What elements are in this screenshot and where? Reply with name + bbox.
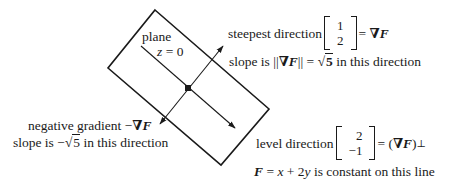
F-symbol: F	[289, 54, 298, 69]
slope-suffix: in this direction	[333, 54, 421, 69]
level-line-label: F = x + 2y is constant on this line	[254, 164, 435, 179]
right-bracket	[369, 126, 375, 160]
plane-equation: z = 0	[157, 44, 183, 59]
perp-icon: ⊥	[417, 136, 426, 151]
center-point	[185, 85, 191, 91]
slope-mid: || =	[298, 54, 318, 69]
level-direction-label: level direction 2 −1 = (∇F)⊥	[256, 126, 426, 160]
vector-entry: 1	[337, 18, 344, 33]
nabla-icon: ∇	[393, 136, 403, 151]
nabla-icon: ∇	[279, 54, 289, 69]
level-vector: 2 −1	[336, 126, 376, 160]
negative-text: negative gradient −	[28, 118, 132, 133]
equals-paren: = (	[377, 136, 392, 151]
steepest-direction-label: steepest direction 1 2 = ∇F	[228, 16, 389, 50]
vector-entry: 2	[337, 33, 344, 48]
plane-label: plane	[142, 29, 171, 44]
nabla-icon: ∇	[370, 26, 380, 41]
slope-prefix: slope is ||	[229, 54, 279, 69]
nabla-icon: ∇	[132, 118, 142, 133]
slope-suffix: in this direction	[80, 135, 168, 150]
equation-rest: = 0	[162, 44, 183, 59]
plus-two: + 2	[283, 164, 304, 179]
sqrt-radicand: 5	[72, 134, 80, 150]
sqrt-5: √5	[65, 135, 80, 150]
slope-prefix: slope is −	[13, 135, 65, 150]
sqrt-radicand: 5	[325, 53, 333, 69]
vector-entry: 2	[356, 128, 363, 143]
F-symbol: F	[403, 136, 412, 151]
F-symbol: F	[143, 118, 152, 133]
equals-sign: =	[359, 26, 367, 41]
steepest-vector: 1 2	[324, 16, 357, 50]
sqrt-5: √5	[318, 54, 333, 69]
F-symbol: F	[254, 164, 263, 179]
level-text: level direction	[256, 136, 334, 151]
negative-slope-label: slope is −√5 in this direction	[13, 135, 168, 150]
steepest-text: steepest direction	[228, 26, 322, 41]
steepest-slope-label: slope is ||∇F|| = √5 in this direction	[229, 54, 421, 69]
F-symbol: F	[380, 26, 389, 41]
vector-entry: −1	[349, 143, 363, 158]
right-bracket	[351, 16, 357, 50]
sqrt-icon: √	[318, 54, 325, 69]
equals-sign: =	[263, 164, 277, 179]
line-suffix: is constant on this line	[311, 164, 435, 179]
negative-gradient-label: negative gradient −∇F	[28, 118, 152, 133]
